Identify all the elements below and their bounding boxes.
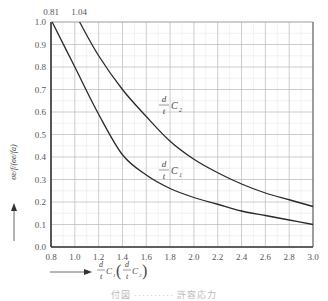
x-tick-labels: 0.81.01.21.41.61.82.02.22.42.62.83.0 <box>45 252 319 262</box>
y-tick-label: 0.3 <box>35 175 47 185</box>
y-tick-label: 0.9 <box>35 40 47 50</box>
y-tick-label: 0.0 <box>35 242 47 252</box>
y-tick-label: 0.5 <box>35 130 47 140</box>
x-axis-arrow-icon <box>50 269 92 275</box>
y-tick-label: 0.8 <box>35 62 47 72</box>
svg-text:d: d <box>125 260 130 269</box>
c1-symbol: C <box>171 165 178 176</box>
x-tick-label: 0.8 <box>45 252 57 262</box>
x-tick-label: 2.2 <box>212 252 223 262</box>
c2-denominator: t <box>163 106 166 116</box>
x-tick-label: 2.6 <box>260 252 272 262</box>
x-tick-label: 1.8 <box>164 252 176 262</box>
c1-subscript: 1 <box>179 172 182 178</box>
svg-text:C: C <box>106 266 113 276</box>
y-tick-label: 0.6 <box>35 107 47 117</box>
figure-caption: 付図 ·········· 許容応力 <box>0 288 328 301</box>
curve-2 <box>80 22 313 207</box>
y-axis-label: σe/f/(σe/fa) <box>9 144 18 180</box>
svg-text:t: t <box>100 272 103 281</box>
svg-text:C: C <box>132 266 139 276</box>
annotation-0-81: 0.81 <box>43 7 59 17</box>
annotation-1-04: 1.04 <box>71 7 87 17</box>
y-tick-label: 0.4 <box>35 152 47 162</box>
x-tick-label: 2.4 <box>236 252 248 262</box>
x-tick-label: 1.0 <box>69 252 81 262</box>
y-tick-label: 0.2 <box>35 197 46 207</box>
x-tick-label: 1.6 <box>141 252 153 262</box>
x-tick-label: 3.0 <box>307 252 319 262</box>
c1-numerator: d <box>162 159 167 169</box>
y-tick-labels: 0.00.10.20.30.40.50.60.70.80.91.0 <box>35 17 47 252</box>
svg-text:): ) <box>142 262 147 280</box>
c2-numerator: d <box>162 94 167 104</box>
curve-label-c1: d t C 1 <box>159 159 182 181</box>
x-axis-label: d t C 1 ( d t C 2 ) <box>97 260 147 281</box>
x-tick-label: 2.0 <box>188 252 200 262</box>
y-tick-label: 0.7 <box>35 85 47 95</box>
svg-text:(: ( <box>116 262 121 280</box>
y-axis-arrow-icon <box>11 203 17 241</box>
x-tick-label: 2.8 <box>284 252 296 262</box>
svg-text:t: t <box>126 272 129 281</box>
curve-label-c2: d t C 2 <box>159 94 182 116</box>
y-tick-label: 0.1 <box>35 220 46 230</box>
c2-symbol: C <box>171 100 178 111</box>
y-tick-label: 1.0 <box>35 17 47 27</box>
c2-subscript: 2 <box>179 107 182 113</box>
